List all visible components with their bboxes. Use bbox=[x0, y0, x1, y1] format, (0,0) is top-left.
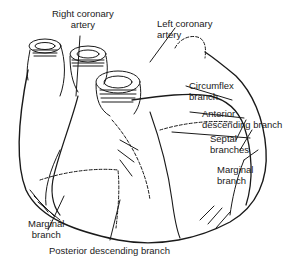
label-line: Circumflex bbox=[189, 80, 234, 91]
label-circumflex-branch: Circumflex branch bbox=[189, 80, 234, 102]
label-line: artery bbox=[52, 19, 114, 30]
label-line: Left coronary bbox=[157, 18, 212, 29]
label-line: branches bbox=[210, 144, 249, 155]
heart-diagram: Right coronary artery Left coronary arte… bbox=[0, 0, 288, 263]
label-line: branch bbox=[189, 91, 234, 102]
label-line: Septal bbox=[210, 133, 249, 144]
label-marginal-branch-right: Marginal branch bbox=[28, 218, 64, 240]
label-septal-branches: Septal branches bbox=[210, 133, 249, 155]
label-posterior-descending-branch: Posterior descending branch bbox=[49, 245, 170, 256]
label-line: artery bbox=[157, 29, 212, 40]
label-line: Marginal bbox=[217, 164, 253, 175]
label-right-coronary-artery: Right coronary artery bbox=[52, 8, 114, 30]
label-line: Right coronary bbox=[52, 8, 114, 19]
label-marginal-branch-left: Marginal branch bbox=[217, 164, 253, 186]
label-left-coronary-artery: Left coronary artery bbox=[157, 18, 212, 40]
label-line: branch bbox=[28, 229, 64, 240]
label-line: Posterior descending branch bbox=[49, 245, 170, 256]
label-line: Anterior bbox=[202, 108, 282, 119]
label-line: descending branch bbox=[202, 119, 282, 130]
label-line: branch bbox=[217, 175, 253, 186]
label-line: Marginal bbox=[28, 218, 64, 229]
label-anterior-descending-branch: Anterior descending branch bbox=[202, 108, 282, 130]
